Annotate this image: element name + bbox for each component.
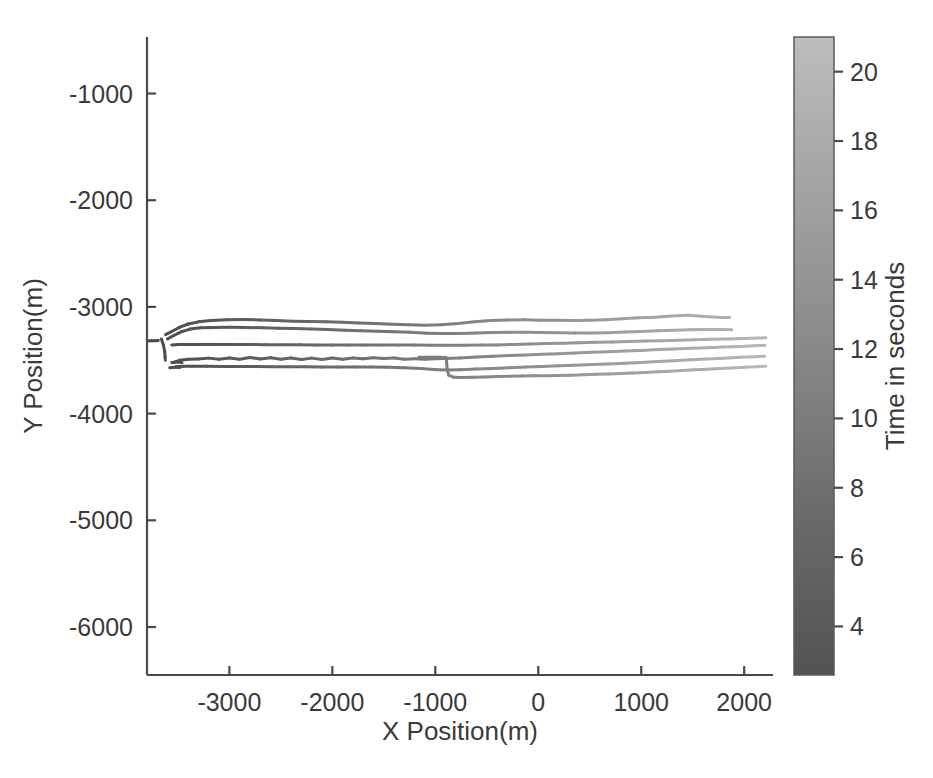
trajectory-segment: [658, 330, 674, 331]
trajectory-segment: [633, 372, 645, 373]
x-axis-title: X Position(m): [382, 716, 538, 746]
colorbar-tick-label: 12: [850, 335, 878, 363]
trajectory-segment: [460, 357, 476, 358]
trajectory-segment: [190, 328, 200, 329]
trajectory-segment: [608, 332, 624, 333]
trajectory-segment: [363, 358, 373, 359]
trajectory-segment: [542, 354, 558, 355]
trajectory-segment: [384, 358, 394, 359]
trajectory-segment: [641, 350, 657, 351]
trajectory-segment: [639, 317, 655, 318]
trajectory-segment: [322, 358, 332, 359]
colorbar-title: Time in seconds: [880, 262, 910, 450]
trajectory-segment: [476, 356, 492, 357]
trajectory-segment: [625, 331, 641, 332]
y-tick-label: -4000: [69, 400, 133, 428]
trajectory-segment: [740, 357, 754, 358]
colorbar-tick-label: 18: [850, 127, 878, 155]
trajectory-segment: [590, 320, 606, 321]
trajectory-segment: [707, 347, 723, 348]
trajectory-segment: [695, 369, 707, 370]
trajectory-segment: [740, 346, 754, 347]
trajectory-segment: [240, 357, 250, 359]
trajectory-segment: [674, 348, 690, 349]
colorbar-tick-label: 4: [850, 612, 864, 640]
trajectory-segment: [658, 361, 674, 362]
trajectory-segment: [689, 315, 705, 316]
trajectory-segment: [328, 330, 344, 331]
y-tick-label: -5000: [69, 506, 133, 534]
colorbar-tick-label: 16: [850, 196, 878, 224]
trajectory-segment: [542, 366, 558, 367]
trajectory-segment: [491, 320, 507, 321]
trajectory-segment: [421, 369, 437, 370]
trajectory-segment: [608, 351, 624, 352]
trajectory-segment: [198, 358, 208, 359]
trajectory-segment: [674, 360, 690, 361]
trajectory-segment: [229, 358, 239, 359]
trajectory-segment: [188, 322, 198, 324]
trajectory-segment: [606, 319, 622, 320]
trajectory-segment: [641, 362, 657, 363]
trajectory-segment: [211, 320, 227, 321]
trajectory-segment: [394, 332, 410, 333]
trajectory-segment: [592, 364, 608, 365]
colorbar-tick-label: 8: [850, 474, 864, 502]
trajectory-segment: [672, 315, 688, 316]
trajectory-segment: [705, 317, 721, 318]
trajectory-segment: [260, 358, 270, 359]
trajectory-segment: [509, 367, 525, 368]
trajectory-segment: [724, 346, 740, 347]
trajectory-segment: [441, 324, 457, 325]
trajectory-line: [147, 340, 158, 341]
trajectory-segment: [332, 358, 342, 359]
colorbar-tick-label: 20: [850, 58, 878, 86]
trajectory-segment: [291, 358, 301, 359]
trajectory-segment: [719, 368, 731, 369]
trajectory-segment: [656, 316, 672, 317]
trajectory-segment: [374, 358, 384, 359]
trajectory-segment: [446, 358, 460, 359]
trajectory-segment: [271, 358, 281, 359]
trajectory-segment: [645, 372, 657, 373]
trajectory-segment: [250, 357, 260, 359]
trajectory-segment: [493, 368, 509, 369]
y-tick-label: -1000: [69, 80, 133, 108]
figure-root: -1000-2000-3000-4000-5000-6000 -3000-200…: [0, 0, 933, 778]
trajectory-segment: [658, 349, 674, 350]
y-tick-label: -2000: [69, 186, 133, 214]
trajectory-segment: [277, 321, 293, 322]
trajectory-segment: [559, 353, 575, 354]
trajectory-segment: [359, 323, 375, 324]
trajectory-segment: [526, 366, 542, 367]
trajectory-segment: [460, 369, 476, 370]
trajectory-segment: [394, 358, 404, 359]
trajectory-segment: [526, 354, 542, 355]
trajectory-segment: [353, 358, 363, 359]
colorbar-gradient: [794, 37, 834, 675]
trajectory-segment: [312, 358, 322, 359]
chart-canvas: -1000-2000-3000-4000-5000-6000 -3000-200…: [0, 0, 933, 778]
trajectory-segment: [575, 352, 591, 353]
trajectory-segment: [178, 362, 182, 363]
colorbar-tick-label: 10: [850, 404, 878, 432]
trajectory-segment: [411, 332, 427, 333]
colorbar-tick-label: 14: [850, 266, 878, 294]
trajectory-segment: [301, 358, 311, 359]
trajectory-segment: [392, 324, 408, 325]
trajectory-segment: [625, 362, 641, 363]
trajectory-segment: [691, 359, 707, 360]
trajectory-segment: [592, 352, 608, 353]
trajectory-segment: [641, 331, 657, 332]
y-tick-label: -6000: [69, 613, 133, 641]
trajectory-line: [172, 362, 182, 363]
trajectory-segment: [707, 369, 719, 370]
trajectory-segment: [281, 358, 291, 359]
trajectory-segment: [575, 365, 591, 366]
trajectory-segment: [474, 321, 490, 322]
trajectory-segment: [707, 358, 723, 359]
x-tick-label: -2000: [300, 688, 364, 716]
trajectory-segment: [343, 358, 353, 359]
trajectory-segment: [608, 363, 624, 364]
x-tick-label: 1000: [613, 688, 669, 716]
